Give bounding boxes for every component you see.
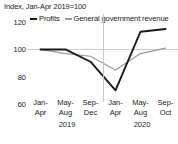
x-axis-tick-5-line-1: Oct xyxy=(153,108,178,118)
y-axis-tick-100: 100 xyxy=(13,45,26,54)
x-axis-tick-4-line-0: May- xyxy=(128,98,153,108)
y-axis-tick-60: 60 xyxy=(18,100,26,109)
period-divider xyxy=(103,14,104,102)
x-axis-tick-2-line-0: Sep- xyxy=(78,98,103,108)
y-axis-tick-120: 120 xyxy=(13,18,26,27)
x-axis-tick-5-line-0: Sep- xyxy=(153,98,178,108)
x-axis-tick-0-line-1: Apr xyxy=(28,108,53,118)
x-axis-tick-1-line-0: May- xyxy=(53,98,78,108)
y-axis-tick-80: 80 xyxy=(18,72,26,81)
x-axis-group-label-2019: 2019 xyxy=(28,120,106,129)
x-axis-tick-2-line-1: Dec xyxy=(78,108,103,118)
x-axis-tick-1-line-1: Aug xyxy=(53,108,78,118)
x-axis-group-label-2020: 2020 xyxy=(103,120,178,129)
x-axis-tick-4: May-Aug xyxy=(128,98,153,118)
x-axis-tick-3-line-0: Jan- xyxy=(103,98,128,108)
x-axis-tick-3-line-1: Apr xyxy=(103,108,128,118)
x-axis-tick-3: Jan-Apr xyxy=(103,98,128,118)
x-axis-tick-0-line-0: Jan- xyxy=(28,98,53,108)
x-axis-tick-4-line-1: Aug xyxy=(128,108,153,118)
chart-container: Index, Jan-Apr 2019=100 Profits General … xyxy=(0,0,178,144)
x-axis-tick-2: Sep-Dec xyxy=(78,98,103,118)
x-axis-tick-0: Jan-Apr xyxy=(28,98,53,118)
x-axis-tick-1: May-Aug xyxy=(53,98,78,118)
x-axis-tick-5: Sep-Oct xyxy=(153,98,178,118)
y-axis-labels: 6080100120 xyxy=(0,0,28,144)
x-axis-labels: Jan-AprMay-AugSep-DecJan-AprMay-AugSep-O… xyxy=(28,98,178,144)
